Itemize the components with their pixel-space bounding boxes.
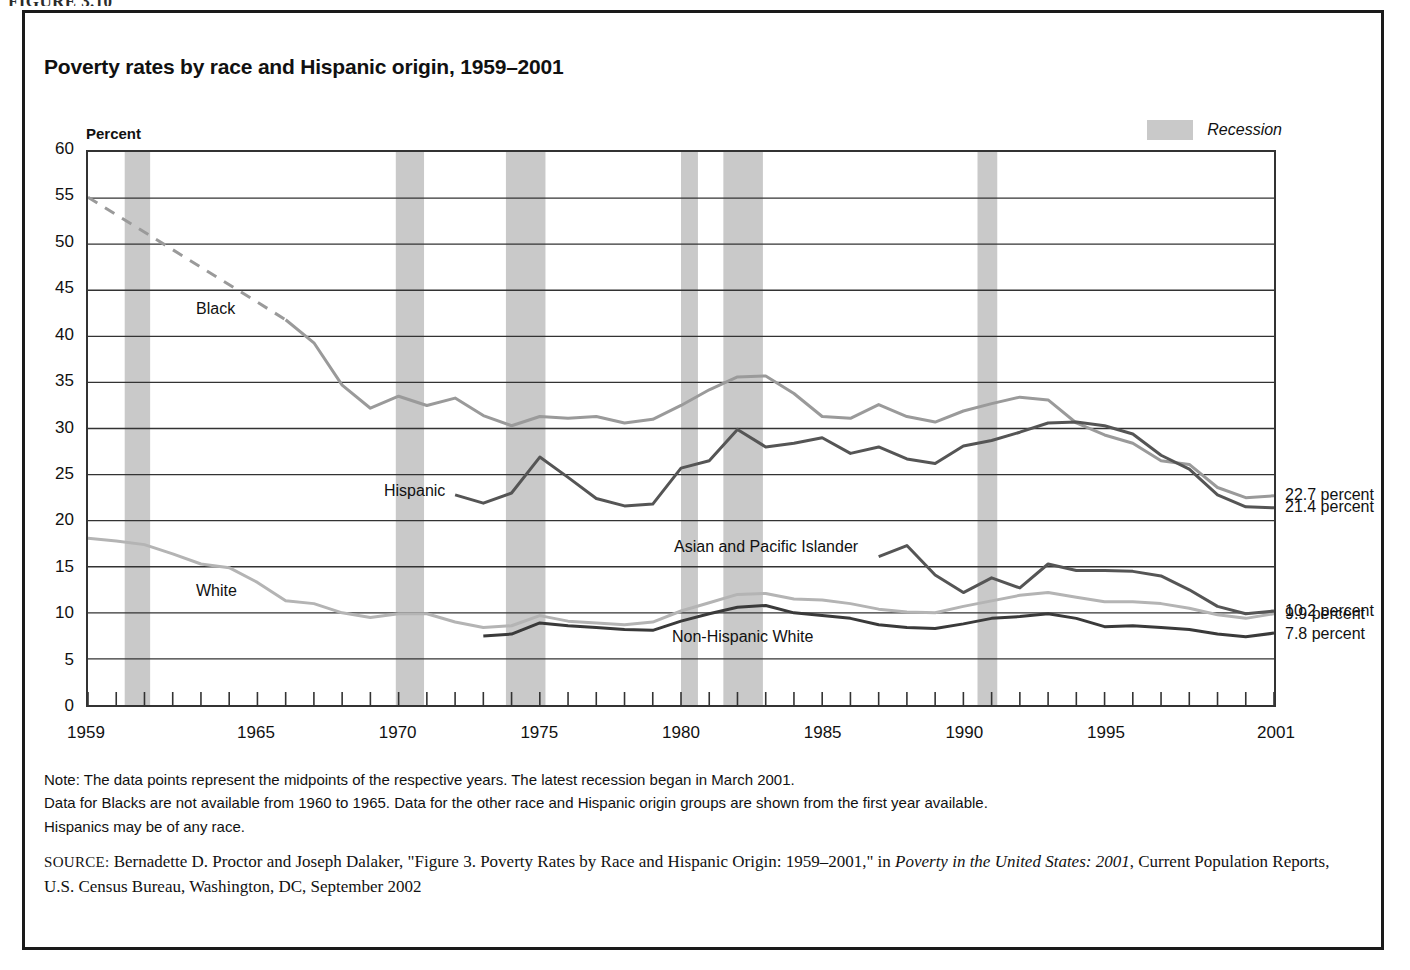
legend-label-recession: Recession [1207, 121, 1282, 139]
series-label-hispanic: Hispanic [384, 482, 445, 500]
y-tick-label: 0 [30, 696, 74, 716]
series-end-label: 21.4 percent [1285, 498, 1374, 516]
y-tick-label: 30 [30, 418, 74, 438]
series-end-label: 9.9 percent [1285, 605, 1365, 623]
note-line-1: Note: The data points represent the midp… [44, 768, 1294, 791]
note-line-3: Hispanics may be of any race. [44, 815, 1294, 838]
page-title: Poverty rates by race and Hispanic origi… [44, 55, 564, 79]
series-line-dashed-black [88, 197, 286, 320]
y-tick-label: 15 [30, 557, 74, 577]
y-tick-label: 35 [30, 371, 74, 391]
y-tick-label: 60 [30, 139, 74, 159]
x-tick-label: 1980 [662, 723, 700, 743]
legend: Recession [1147, 120, 1282, 140]
recession-swatch-icon [1147, 120, 1193, 140]
y-tick-label: 40 [30, 325, 74, 345]
y-tick-label: 10 [30, 603, 74, 623]
x-tick-label: 1985 [804, 723, 842, 743]
y-tick-label: 20 [30, 510, 74, 530]
chart-plot-area [86, 150, 1276, 707]
figure-number: FIGURE 3.10 [8, 0, 113, 6]
series-line-asian-and-pacific-islander [879, 546, 1274, 614]
x-tick-label: 1995 [1087, 723, 1125, 743]
source-italic-title: Poverty in the United States: 2001 [895, 852, 1130, 871]
y-tick-label: 5 [30, 650, 74, 670]
series-label-white: White [196, 582, 237, 600]
y-tick-label: 55 [30, 185, 74, 205]
x-tick-label: 1965 [237, 723, 275, 743]
chart-svg [88, 152, 1274, 705]
series-label-black: Black [196, 300, 235, 318]
series-line-hispanic [455, 422, 1274, 508]
y-axis-title: Percent [86, 125, 141, 142]
series-line-black [286, 320, 1274, 498]
x-tick-label: 2001 [1257, 723, 1295, 743]
chart-note: Note: The data points represent the midp… [44, 768, 1294, 838]
source-prefix: SOURCE: [44, 854, 109, 870]
source-part-1: Bernadette D. Proctor and Joseph Dalaker… [109, 852, 895, 871]
chart-source: SOURCE: Bernadette D. Proctor and Joseph… [44, 850, 1334, 899]
x-tick-label: 1975 [520, 723, 558, 743]
y-tick-label: 50 [30, 232, 74, 252]
y-tick-label: 45 [30, 278, 74, 298]
x-tick-label: 1990 [945, 723, 983, 743]
series-end-label: 7.8 percent [1285, 625, 1365, 643]
figure-root: FIGURE 3.10 Poverty rates by race and Hi… [0, 0, 1410, 970]
x-tick-label: 1970 [379, 723, 417, 743]
series-label-asian-and-pacific-islander: Asian and Pacific Islander [674, 538, 858, 556]
note-line-2: Data for Blacks are not available from 1… [44, 791, 1294, 814]
y-tick-label: 25 [30, 464, 74, 484]
x-tick-label: 1959 [67, 723, 105, 743]
series-label-non-hispanic-white: Non-Hispanic White [672, 628, 813, 646]
